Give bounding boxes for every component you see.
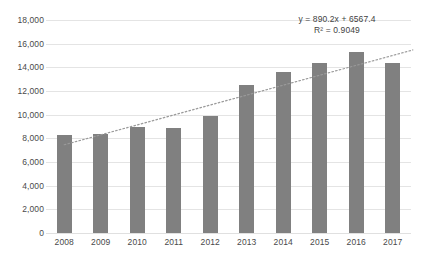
y-axis-tick-label: 6,000 bbox=[2, 157, 44, 167]
y-axis-tick-label: 14,000 bbox=[2, 62, 44, 72]
r-squared-label: R² = 0.9049 bbox=[262, 25, 412, 36]
y-axis: 02,0004,0006,0008,00010,00012,00014,0001… bbox=[0, 20, 44, 233]
bar bbox=[312, 63, 327, 233]
bar bbox=[276, 72, 291, 233]
bar bbox=[93, 134, 108, 233]
y-axis-tick-label: 4,000 bbox=[2, 181, 44, 191]
bar-series bbox=[46, 20, 411, 233]
y-axis-tick-label: 18,000 bbox=[2, 15, 44, 25]
bar bbox=[349, 52, 364, 233]
chart-container: 02,0004,0006,0008,00010,00012,00014,0001… bbox=[0, 0, 433, 265]
y-axis-tick-label: 16,000 bbox=[2, 39, 44, 49]
y-axis-tick-label: 12,000 bbox=[2, 86, 44, 96]
bar bbox=[385, 63, 400, 233]
bar bbox=[130, 127, 145, 234]
bar bbox=[239, 85, 254, 234]
y-axis-tick-label: 0 bbox=[2, 228, 44, 238]
x-axis-tick-label: 2010 bbox=[119, 237, 155, 247]
x-axis-tick-label: 2017 bbox=[375, 237, 411, 247]
x-axis-tick-label: 2011 bbox=[156, 237, 192, 247]
gridline bbox=[46, 233, 411, 234]
x-axis-tick-label: 2014 bbox=[265, 237, 301, 247]
plot-area bbox=[46, 20, 411, 233]
x-axis-tick-label: 2013 bbox=[229, 237, 265, 247]
bar bbox=[57, 135, 72, 233]
x-axis-tick-label: 2008 bbox=[46, 237, 82, 247]
x-axis-tick-label: 2015 bbox=[302, 237, 338, 247]
x-axis-tick-label: 2016 bbox=[338, 237, 374, 247]
regression-equation: y = 890.2x + 6567.4 bbox=[262, 14, 412, 25]
y-axis-tick-label: 2,000 bbox=[2, 204, 44, 214]
x-axis-tick-label: 2009 bbox=[83, 237, 119, 247]
bar bbox=[203, 116, 218, 233]
regression-annotation: y = 890.2x + 6567.4 R² = 0.9049 bbox=[262, 14, 412, 36]
x-axis: 2008200920102011201220132014201520162017 bbox=[46, 237, 411, 253]
y-axis-tick-label: 10,000 bbox=[2, 110, 44, 120]
x-axis-tick-label: 2012 bbox=[192, 237, 228, 247]
y-axis-tick-label: 8,000 bbox=[2, 133, 44, 143]
bar bbox=[166, 128, 181, 233]
